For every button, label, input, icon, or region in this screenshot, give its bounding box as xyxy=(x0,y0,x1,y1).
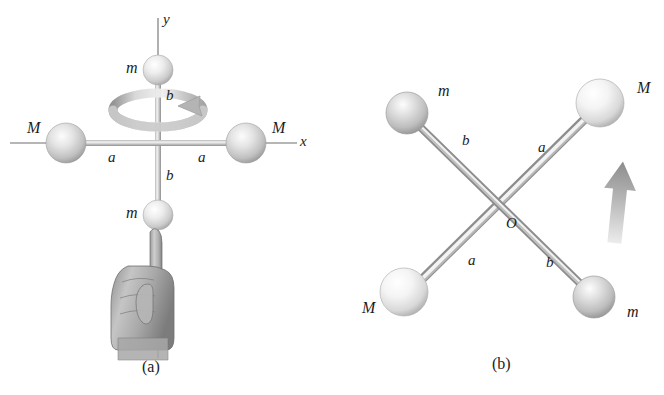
y-axis-label: y xyxy=(163,12,170,27)
sphere-M-left xyxy=(46,123,86,163)
rod-label-a-left: a xyxy=(108,150,116,165)
sphere-label-m-top-left: m xyxy=(438,83,450,99)
rod-a xyxy=(408,105,600,296)
sphere-m-top xyxy=(143,55,173,85)
rod-label-b-lower: b xyxy=(166,168,174,183)
sphere-label-M-left: M xyxy=(27,120,40,136)
rod-label-b-upper-left: b xyxy=(462,133,470,148)
rod-label-b-lower-right: b xyxy=(546,255,554,270)
sphere-M-right xyxy=(226,123,266,163)
sphere-m-top-left xyxy=(386,92,428,134)
sphere-label-m-top: m xyxy=(126,60,138,76)
rod-label-a-upper-right: a xyxy=(538,140,546,155)
x-axis-label: x xyxy=(300,134,307,149)
motion-arrow-shape xyxy=(598,160,638,245)
sphere-label-m-bottom-right: m xyxy=(627,304,639,320)
rod-label-b-upper: b xyxy=(166,88,174,103)
panel-b-caption: (b) xyxy=(492,355,511,373)
rod-label-a-right: a xyxy=(198,150,206,165)
sphere-M-bottom-left xyxy=(380,268,428,316)
sphere-label-m-bottom: m xyxy=(126,205,138,221)
panel-b-graphics xyxy=(332,0,664,395)
sphere-m-bottom xyxy=(143,200,173,230)
motion-arrow-up xyxy=(598,160,638,245)
rod-label-a-lower-left: a xyxy=(468,253,476,268)
sphere-m-bottom-right xyxy=(573,276,615,318)
sphere-M-top-right xyxy=(576,79,624,127)
hand-illustration xyxy=(111,229,174,360)
panel-a-caption: (a) xyxy=(142,358,160,376)
panel-a-graphics xyxy=(0,0,332,395)
sphere-label-M-top-right: M xyxy=(637,80,650,96)
panel-b: m M M m b a a b O (b) xyxy=(332,0,664,395)
sphere-label-M-bottom-left: M xyxy=(362,300,375,316)
rod-b xyxy=(410,117,595,300)
sphere-label-M-right: M xyxy=(272,120,285,136)
panel-a: y x m M M m b b a a (a) xyxy=(0,0,332,395)
origin-label: O xyxy=(506,216,517,231)
physics-figure: y x m M M m b b a a (a) xyxy=(0,0,664,395)
